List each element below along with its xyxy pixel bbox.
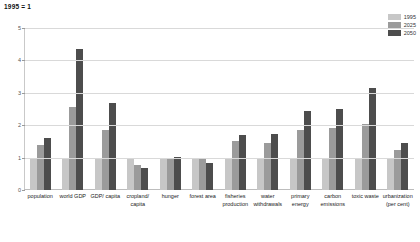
bar-2025[interactable] (134, 165, 141, 190)
legend-item-1995[interactable]: 1995 (388, 14, 416, 20)
bar-1995[interactable] (355, 158, 362, 190)
bar-2050[interactable] (44, 138, 51, 190)
bar-2050[interactable] (369, 88, 376, 190)
y-axis-tick-5: 5 (18, 25, 21, 31)
bar-group (57, 28, 90, 190)
bar-2025[interactable] (297, 130, 304, 190)
bar-group (284, 28, 317, 190)
bar-group (24, 28, 57, 190)
bar-group (187, 28, 220, 190)
bar-2025[interactable] (232, 141, 239, 190)
x-axis-label: toxic waste (349, 193, 382, 208)
chart-title: 1995 = 1 (4, 3, 31, 10)
y-tick-mark-1 (22, 158, 25, 159)
gridline-5 (24, 28, 414, 29)
y-axis-tick-3: 3 (18, 90, 21, 96)
plot-area: 012345 (24, 28, 414, 190)
x-axis-label: primary energy (284, 193, 317, 208)
bar-1995[interactable] (160, 158, 167, 190)
legend-label: 1995 (404, 14, 416, 20)
x-axis-labels: populationworld GDPGDP/ capitacropland/ … (24, 193, 414, 208)
bar-1995[interactable] (95, 158, 102, 190)
x-axis-label: fisheries production (219, 193, 252, 208)
bar-group (382, 28, 415, 190)
x-axis-label: hunger (154, 193, 187, 208)
bar-2050[interactable] (206, 163, 213, 190)
bar-2025[interactable] (394, 150, 401, 191)
bar-group (252, 28, 285, 190)
bar-1995[interactable] (225, 158, 232, 190)
x-axis-label: urbanization (per cent) (382, 193, 415, 208)
bar-2025[interactable] (37, 145, 44, 190)
bar-1995[interactable] (387, 158, 394, 190)
bar-1995[interactable] (192, 158, 199, 190)
bar-2025[interactable] (167, 158, 174, 190)
y-axis-tick-0: 0 (18, 187, 21, 193)
x-axis-label: water withdrawals (252, 193, 285, 208)
gridline-2 (24, 125, 414, 126)
bar-2050[interactable] (271, 134, 278, 190)
bar-2050[interactable] (304, 111, 311, 190)
bar-2050[interactable] (141, 168, 148, 190)
bar-group (154, 28, 187, 190)
bar-1995[interactable] (62, 158, 69, 190)
y-tick-mark-2 (22, 125, 25, 126)
bar-2025[interactable] (69, 107, 76, 190)
bar-group (317, 28, 350, 190)
bar-group (122, 28, 155, 190)
y-axis-tick-4: 4 (18, 57, 21, 63)
x-axis-label: GDP/ capita (89, 193, 122, 208)
y-tick-mark-5 (22, 28, 25, 29)
bar-1995[interactable] (30, 158, 37, 190)
y-tick-mark-0 (22, 190, 25, 191)
bar-group (219, 28, 252, 190)
bar-1995[interactable] (290, 158, 297, 190)
x-axis-label: carbon emissions (317, 193, 350, 208)
bar-2025[interactable] (329, 128, 336, 190)
x-axis-label: forest area (187, 193, 220, 208)
bar-group (349, 28, 382, 190)
bar-group (89, 28, 122, 190)
gridline-1 (24, 158, 414, 159)
bar-1995[interactable] (127, 158, 134, 190)
bar-2025[interactable] (264, 143, 271, 190)
bar-1995[interactable] (322, 158, 329, 190)
bar-2050[interactable] (401, 143, 408, 190)
bar-2025[interactable] (199, 159, 206, 190)
x-axis-label: world GDP (57, 193, 90, 208)
legend-swatch-1995 (388, 14, 401, 20)
y-tick-mark-3 (22, 93, 25, 94)
y-axis-tick-1: 1 (18, 155, 21, 161)
y-axis-tick-2: 2 (18, 122, 21, 128)
bar-2050[interactable] (109, 103, 116, 190)
bar-groups (24, 28, 414, 190)
bar-2050[interactable] (76, 49, 83, 190)
gridline-3 (24, 93, 414, 94)
y-tick-mark-4 (22, 60, 25, 61)
bar-2025[interactable] (102, 130, 109, 190)
bar-2050[interactable] (336, 109, 343, 190)
x-axis-label: population (24, 193, 57, 208)
bar-2050[interactable] (239, 135, 246, 190)
bar-1995[interactable] (257, 158, 264, 190)
bar-2050[interactable] (174, 157, 181, 190)
chart-container: 1995 = 1 199520252050 012345 populationw… (0, 0, 420, 242)
x-axis-label: cropland/ capita (122, 193, 155, 208)
gridline-4 (24, 60, 414, 61)
